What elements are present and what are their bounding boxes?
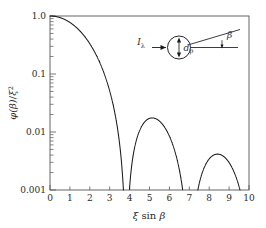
y-tick-label: 0.01 xyxy=(26,127,46,137)
x-axis-title-sin: sin xyxy=(141,210,156,221)
y-tick-label: 1.0 xyxy=(32,11,47,21)
y-axis-title-exponent: 2 xyxy=(7,86,15,90)
x-tick-label: 5 xyxy=(147,193,153,203)
x-tick-label: 0 xyxy=(47,193,53,203)
x-tick-label: 7 xyxy=(186,193,192,203)
x-tick-label: 2 xyxy=(87,193,93,203)
scattering-angle-label: β xyxy=(226,30,232,40)
svg-text:ξ sin β: ξ sin β xyxy=(133,210,166,221)
x-axis-title-beta: β xyxy=(158,210,165,221)
y-axis-title: φ(β)/ξ2 xyxy=(7,86,19,120)
x-tick-label: 9 xyxy=(226,193,232,203)
x-tick-label: 1 xyxy=(67,193,73,203)
x-tick-label: 8 xyxy=(206,193,212,203)
x-tick-label: 3 xyxy=(107,193,113,203)
x-axis-title: ξ sin β xyxy=(133,210,166,221)
y-tick-label: 0.001 xyxy=(20,185,46,195)
x-tick-label: 6 xyxy=(167,193,173,203)
svg-text:φ(β)/ξ2: φ(β)/ξ2 xyxy=(7,86,19,120)
y-axis-title-phi: φ(β) xyxy=(7,99,18,120)
y-tick-label: 0.1 xyxy=(32,69,46,79)
figure-airy-diffraction-plot: 0 1 2 3 4 5 6 7 8 9 10 1.0 0.1 0.01 0.00… xyxy=(0,0,266,228)
x-tick-label: 4 xyxy=(127,193,133,203)
x-tick-label: 10 xyxy=(243,193,255,203)
chart-svg: 0 1 2 3 4 5 6 7 8 9 10 1.0 0.1 0.01 0.00… xyxy=(0,0,266,228)
